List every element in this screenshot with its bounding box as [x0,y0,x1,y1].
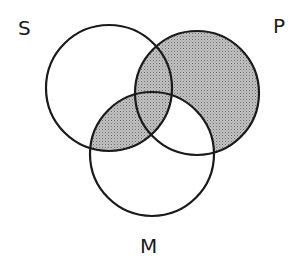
label-p: P [273,14,285,38]
label-m: M [140,234,157,258]
venn-diagram: S P M [0,0,302,268]
label-s: S [18,16,31,40]
